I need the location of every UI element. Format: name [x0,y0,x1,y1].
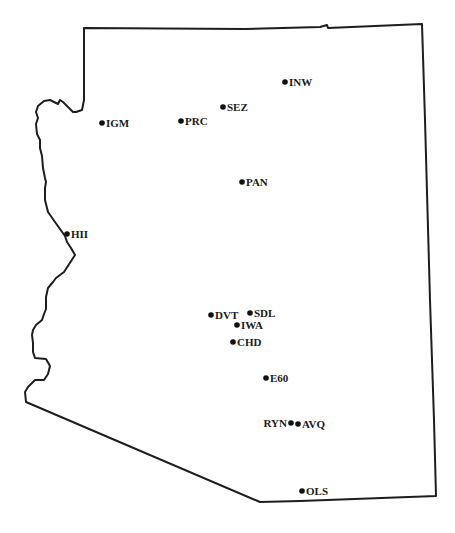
station-label: SDL [254,307,275,319]
station-marker-icon [247,310,253,316]
station-marker-icon [299,488,305,494]
station-label: DVT [215,309,239,321]
station-marker-icon [99,120,105,126]
station-ols: OLS [299,485,328,497]
station-inw: INW [282,76,312,88]
station-markers: INWSEZIGMPRCPANHIIDVTSDLIWACHDE60RYNAVQO… [64,76,328,497]
station-label: AVQ [302,418,325,430]
station-avq: AVQ [295,418,325,430]
station-iwa: IWA [234,319,263,331]
station-ryn: RYN [264,417,294,429]
station-label: RYN [264,417,288,429]
station-label: INW [289,76,312,88]
station-label: CHD [237,336,262,348]
station-label: IWA [241,319,263,331]
station-marker-icon [295,421,301,427]
station-marker-icon [239,179,245,185]
station-marker-icon [220,104,226,110]
station-marker-icon [230,339,236,345]
station-pan: PAN [239,176,268,188]
station-marker-icon [208,312,214,318]
station-prc: PRC [178,115,207,127]
station-marker-icon [234,322,240,328]
station-label: PAN [246,176,268,188]
station-hii: HII [64,228,88,240]
station-marker-icon [288,420,294,426]
station-e60: E60 [263,372,289,384]
station-label: PRC [185,115,208,127]
station-dvt: DVT [208,309,239,321]
station-marker-icon [263,375,269,381]
state-border-outline [25,24,436,502]
arizona-map: INWSEZIGMPRCPANHIIDVTSDLIWACHDE60RYNAVQO… [0,0,455,533]
station-igm: IGM [99,117,130,129]
station-chd: CHD [230,336,261,348]
station-label: E60 [270,372,289,384]
station-marker-icon [178,118,184,124]
station-label: OLS [306,485,328,497]
station-sez: SEZ [220,101,248,113]
station-label: SEZ [227,101,248,113]
station-sdl: SDL [247,307,275,319]
station-label: IGM [106,117,130,129]
station-marker-icon [64,231,70,237]
station-marker-icon [282,79,288,85]
station-label: HII [71,228,88,240]
